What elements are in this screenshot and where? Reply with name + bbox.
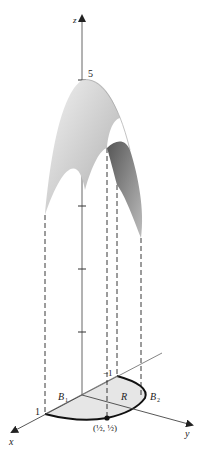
b1-label: B 1 [58,391,68,403]
svg-text:B: B [58,391,64,402]
svg-text:1: 1 [65,397,68,403]
y-axis-label: y [184,428,190,439]
z-axis-label: z [72,15,77,25]
point-marker [104,415,109,420]
point-label: (½, ½) [93,423,117,433]
b2-label: B 2 [150,391,160,403]
x-axis-label: x [8,436,14,447]
surface-back [107,142,142,239]
svg-text:B: B [150,391,156,402]
x-tick-label-1: 1 [35,406,40,417]
neg-x-tick-label: −1 [103,368,113,378]
region-label: R [120,391,127,402]
svg-text:2: 2 [157,397,160,403]
surface-region-diagram: z x y 5 1 −1 R B 1 B 2 (½, ½) [0,0,202,452]
z-tick-label-5: 5 [88,68,93,79]
